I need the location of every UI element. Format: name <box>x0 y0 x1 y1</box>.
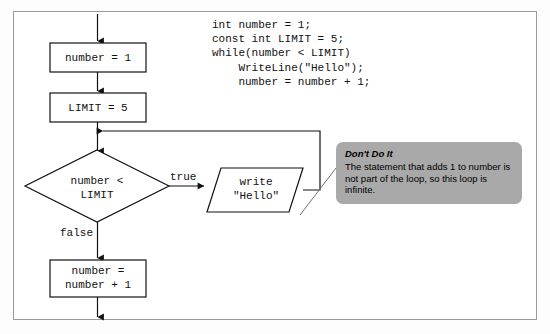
callout-title: Don't Do It <box>345 148 513 160</box>
edge-label-false: false <box>60 227 93 239</box>
node-decision-label-line2: LIMIT <box>80 189 113 201</box>
node-increment-label-line1: number = <box>72 265 125 277</box>
code-listing: int number = 1; const int LIMIT = 5; whi… <box>212 18 370 89</box>
edge-label-true: true <box>170 171 196 183</box>
code-line: WriteLine("Hello"); <box>212 62 364 74</box>
node-increment-label-line2: number + 1 <box>65 279 131 291</box>
callout-body: The statement that adds 1 to number is n… <box>345 161 513 196</box>
code-line: number = number + 1; <box>212 76 370 88</box>
code-line: int number = 1; <box>212 19 311 31</box>
node-output-label-line1: write <box>239 176 272 188</box>
code-line: while(number < LIMIT) <box>212 47 351 59</box>
figure-root: number = 1 LIMIT = 5 number < LIMIT true… <box>0 0 550 334</box>
code-line: const int LIMIT = 5; <box>212 33 344 45</box>
node-output-label-line2: "Hello" <box>233 190 279 202</box>
node-init-number-label: number = 1 <box>65 52 131 64</box>
node-decision-label-line1: number < <box>71 175 124 187</box>
node-init-limit-label: LIMIT = 5 <box>68 102 127 114</box>
dont-do-it-callout: Don't Do It The statement that adds 1 to… <box>336 142 522 204</box>
